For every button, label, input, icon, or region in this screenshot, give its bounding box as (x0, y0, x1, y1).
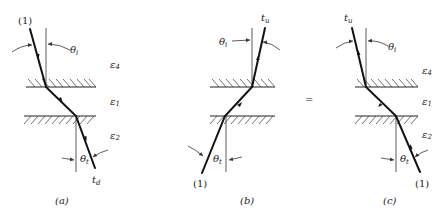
lower-interface-a (24, 116, 96, 124)
angle-arrow-theta-t-c (381, 158, 394, 160)
upper-interface-b (210, 79, 275, 87)
output-label-td: td (92, 174, 101, 187)
angle-arrow-theta-t-a (62, 158, 74, 160)
angle-arc-incident-a (12, 45, 32, 52)
panel-b: tu θi θt (1) (b) (188, 12, 280, 206)
ray-b (202, 28, 265, 173)
theta-i-label-a: θi (70, 44, 78, 57)
angle-arc-incident-b (188, 146, 203, 156)
theta-t-label-b: θt (213, 153, 222, 166)
angle-arc-transmitted-a (93, 150, 108, 157)
lower-interface-c (355, 116, 418, 124)
media-label-eps4-a: ε4 (110, 59, 120, 71)
media-label-eps2-a: ε2 (110, 130, 120, 142)
source-label-b: (1) (193, 178, 207, 189)
theta-i-label-c: θi (388, 41, 396, 54)
theta-t-label-c: θt (400, 153, 409, 166)
angle-arrow-theta-t-b (229, 157, 242, 160)
source-label-a: (1) (18, 15, 32, 26)
ray-c (352, 28, 420, 172)
angle-arc-incident-c (336, 41, 353, 48)
angle-arrow-theta-i-b (232, 40, 250, 41)
theta-i-label-b: θi (219, 36, 227, 49)
equals-sign: = (305, 94, 313, 105)
angle-arrow-theta-i-a (48, 44, 70, 50)
refraction-diagram: (1) θi θt td ε4 ε1 ε2 (a) (0, 0, 447, 215)
lower-interface-b (210, 116, 275, 124)
media-label-eps1-a: ε1 (110, 96, 120, 108)
caption-a: (a) (55, 195, 69, 206)
theta-t-label-a: θt (80, 153, 89, 166)
output-label-tu-c: tu (344, 12, 353, 25)
caption-c: (c) (383, 195, 397, 206)
ray-a (30, 29, 95, 168)
angle-arrow-theta-i-c (368, 41, 388, 46)
angle-arc-transmitted-b (263, 42, 280, 50)
media-label-eps2-c: ε2 (422, 129, 432, 141)
panel-c: tu θi θt (1) ε4 ε1 ε2 (c) (336, 12, 432, 206)
angle-arc-transmitted-c (415, 150, 428, 157)
media-label-eps1-c: ε1 (422, 96, 432, 108)
upper-interface-a (26, 79, 96, 87)
media-label-eps4-c: ε4 (422, 65, 432, 77)
panel-a: (1) θi θt td ε4 ε1 ε2 (a) (12, 15, 120, 206)
caption-b: (b) (240, 195, 254, 206)
output-label-tu-b: tu (261, 12, 270, 25)
source-label-c: (1) (415, 178, 429, 189)
